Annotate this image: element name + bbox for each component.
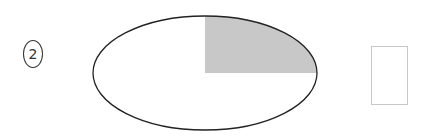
- ellipse-fraction-figure: [0, 0, 431, 137]
- shaded-quarter: [205, 10, 325, 73]
- answer-box[interactable]: [371, 46, 408, 105]
